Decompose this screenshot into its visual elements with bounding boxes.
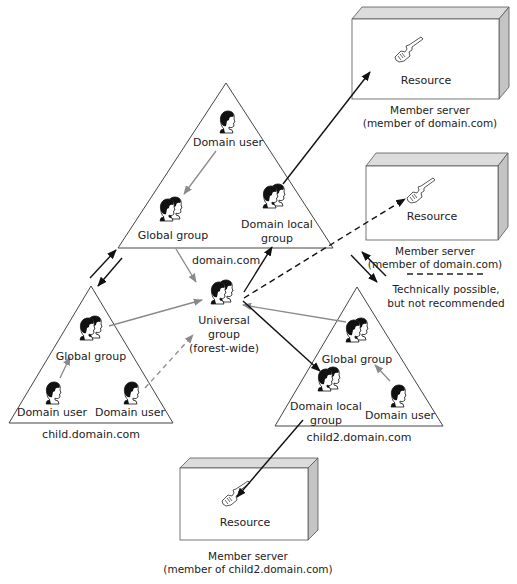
- child-domain-user-left-label: Domain user: [17, 406, 87, 419]
- group-heads-icon: [263, 184, 285, 208]
- child2-global-group-label: Global group: [322, 353, 393, 366]
- server1-caption-1: Member server: [390, 104, 470, 117]
- child2-domain-user-label: Domain user: [365, 409, 435, 422]
- group-heads-icon: [346, 318, 368, 342]
- server2-caption-2: (member of domain.com): [368, 258, 502, 271]
- root-global-group-label: Global group: [138, 229, 209, 242]
- member-server-2: [366, 153, 508, 240]
- child-domain-user-right-label: Domain user: [95, 406, 165, 419]
- child-global-group-label: Global group: [56, 350, 127, 363]
- server1-resource-label: Resource: [401, 74, 451, 87]
- server3-caption-2: (member of child2.domain.com): [163, 563, 332, 576]
- group-heads-icon: [211, 280, 233, 304]
- root-domain-local-label-2: group: [261, 232, 293, 245]
- server3-resource-label: Resource: [220, 516, 270, 529]
- child2-domain-local-label-1: Domain local: [290, 400, 362, 413]
- group-heads-icon: [318, 367, 340, 391]
- root-domain-user-label: Domain user: [193, 136, 263, 149]
- ad-group-nesting-diagram: Domain user Global group Domain local gr…: [0, 0, 517, 584]
- group-heads-icon: [80, 316, 102, 340]
- server2-resource-label: Resource: [407, 210, 457, 223]
- universal-group-label-2: group: [208, 328, 240, 341]
- legend-label-2: but not recommended: [387, 297, 504, 310]
- universal-group-label-3: (forest-wide): [189, 342, 259, 355]
- child-domain-name: child.domain.com: [42, 428, 140, 441]
- universal-group-label-1: Universal: [198, 314, 249, 327]
- child2-domain-local-label-2: group: [310, 414, 342, 427]
- child2-domain-name: child2.domain.com: [307, 431, 412, 444]
- root-domain-name: domain.com: [192, 254, 260, 267]
- legend-label-1: Technically possible,: [392, 283, 499, 296]
- group-heads-icon: [160, 197, 182, 221]
- server3-caption-1: Member server: [208, 550, 288, 563]
- root-domain-local-label-1: Domain local: [241, 218, 313, 231]
- server2-caption-1: Member server: [395, 245, 475, 258]
- server1-caption-2: (member of domain.com): [363, 117, 497, 130]
